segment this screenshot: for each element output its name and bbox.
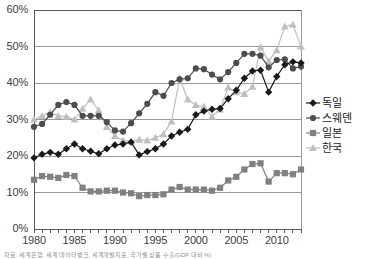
series-2: [31, 160, 304, 199]
legend-item-4[interactable]: 한국: [306, 141, 364, 155]
legend-label: 스웨덴: [320, 112, 352, 124]
chart-container: 0%10%20%30%40%50%60% 1980198519901995200…: [0, 0, 366, 259]
x-tick-label: 1995: [138, 234, 172, 246]
x-tick-label: 1990: [98, 234, 132, 246]
square-marker-icon: [306, 127, 320, 139]
y-tick-label: 40%: [0, 76, 28, 88]
y-tick-label: 60%: [0, 3, 28, 15]
source-caption: 자료: 세계은행, 세계 데이터뱅크, 세계개발지표, 국가별 상품 수출(GD…: [4, 250, 364, 259]
y-tick-label: 0%: [0, 222, 28, 234]
legend-label: 일본: [320, 127, 342, 139]
series-layer: [30, 21, 305, 200]
x-axis-ticks: [34, 229, 301, 233]
x-tick-label: 2005: [219, 234, 253, 246]
legend-item-1[interactable]: 독일: [306, 96, 364, 110]
chart-legend: 독일스웨덴일본한국: [306, 96, 364, 156]
triangle-marker-icon: [306, 142, 320, 154]
y-tick-label: 50%: [0, 40, 28, 52]
legend-label: 독일: [320, 97, 342, 109]
x-tick-label: 2000: [179, 234, 213, 246]
x-tick-label: 1985: [57, 234, 91, 246]
y-tick-label: 10%: [0, 186, 28, 198]
series-0: [30, 58, 304, 161]
legend-label: 한국: [320, 142, 342, 154]
x-tick-label: 2010: [260, 234, 294, 246]
legend-item-2[interactable]: 스웨덴: [306, 111, 364, 125]
y-tick-label: 30%: [0, 113, 28, 125]
x-tick-label: 1980: [17, 234, 51, 246]
diamond-marker-icon: [306, 97, 320, 109]
y-tick-label: 20%: [0, 149, 28, 161]
legend-item-3[interactable]: 일본: [306, 126, 364, 140]
circle-marker-icon: [306, 112, 320, 124]
